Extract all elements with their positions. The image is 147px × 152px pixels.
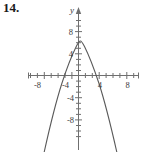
parabola-curve <box>44 41 117 152</box>
y-axis-label: y <box>69 5 74 15</box>
y-tick-label-neg8: -8 <box>67 115 74 125</box>
y-tick-label-pos8: 8 <box>69 27 73 37</box>
coordinate-plot: y -8 -4 4 8 8 4 -4 -8 <box>0 0 147 152</box>
x-tick-label-neg8: -8 <box>34 80 41 90</box>
x-tick-label-pos4: 4 <box>98 80 103 90</box>
x-tick-label-neg4: -4 <box>62 80 70 90</box>
y-tick-label-neg4: -4 <box>67 93 75 103</box>
y-axis-arrowhead <box>76 7 81 14</box>
x-tick-label-pos8: 8 <box>125 80 129 90</box>
figure-container: 14. <box>0 0 147 152</box>
